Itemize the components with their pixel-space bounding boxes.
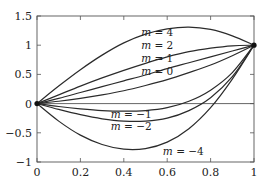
curve-label: m = −4 — [163, 145, 204, 157]
curve-label: m = −2 — [111, 120, 152, 132]
curve-label: m = 1 — [141, 52, 173, 64]
curve-label: m = 0 — [141, 65, 173, 77]
curve-labels: m = 4m = 2m = 1m = 0m = −1m = −2m = −4 — [111, 26, 204, 157]
x-tick-label: 0.8 — [202, 166, 220, 179]
line-chart: 00.20.40.60.81−1−0.500.511.5 m = 4m = 2m… — [0, 0, 266, 187]
y-tick-label: 0.5 — [15, 68, 33, 81]
x-tick-label: 0.4 — [115, 166, 133, 179]
y-tick-label: −0.5 — [5, 127, 32, 140]
axis-ticks: 00.20.40.60.81−1−0.500.511.5 — [5, 10, 257, 179]
x-tick-label: 0.2 — [72, 166, 90, 179]
endpoint-dot — [251, 43, 256, 48]
y-tick-label: 1 — [25, 39, 32, 52]
endpoint-dot — [34, 101, 39, 106]
curve-label: m = 2 — [141, 39, 173, 51]
x-tick-label: 1 — [251, 166, 258, 179]
x-tick-label: 0 — [34, 166, 41, 179]
y-tick-label: 0 — [25, 98, 32, 111]
y-tick-label: 1.5 — [15, 10, 33, 23]
x-tick-label: 0.6 — [158, 166, 176, 179]
curve-label: m = 4 — [141, 26, 173, 38]
curve-label: m = −1 — [111, 108, 152, 120]
y-tick-label: −1 — [16, 156, 32, 169]
